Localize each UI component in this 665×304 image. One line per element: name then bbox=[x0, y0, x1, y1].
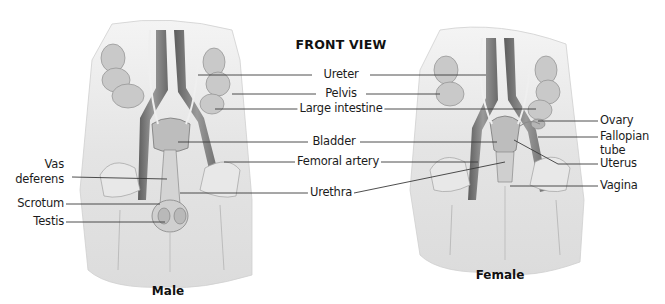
label-uterus: Uterus bbox=[600, 157, 637, 170]
label-urethra: Urethra bbox=[308, 186, 354, 199]
male-figure bbox=[80, 20, 252, 287]
label-pelvis: Pelvis bbox=[323, 87, 359, 100]
label-femoral-artery: Femoral artery bbox=[295, 155, 381, 168]
label-vas-deferens-line1: Vas bbox=[15, 158, 64, 171]
label-fallopian-tube: Fallopian tube bbox=[600, 130, 649, 157]
label-testis: Testis bbox=[33, 215, 64, 228]
label-fallopian-tube-line1: Fallopian bbox=[600, 130, 649, 143]
label-vas-deferens: Vas deferens bbox=[15, 158, 64, 186]
anatomy-diagram: FRONT VIEW Ureter Pelvis Large intestine… bbox=[0, 0, 665, 304]
label-vas-deferens-line2: deferens bbox=[15, 173, 64, 186]
label-ureter: Ureter bbox=[321, 68, 360, 81]
caption-male: Male bbox=[152, 284, 184, 298]
label-scrotum: Scrotum bbox=[17, 197, 64, 210]
caption-female: Female bbox=[476, 268, 525, 282]
female-figure bbox=[410, 27, 584, 274]
label-vagina: Vagina bbox=[600, 179, 638, 192]
diagram-title: FRONT VIEW bbox=[296, 37, 387, 52]
label-ovary: Ovary bbox=[600, 114, 633, 127]
label-large-intestine: Large intestine bbox=[297, 102, 384, 115]
label-bladder: Bladder bbox=[310, 135, 357, 148]
